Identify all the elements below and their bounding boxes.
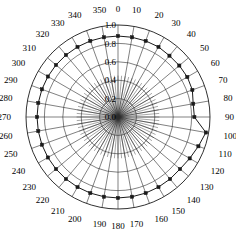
svg-text:50: 50: [200, 43, 210, 53]
svg-text:210: 210: [51, 206, 65, 216]
svg-text:20: 20: [155, 10, 165, 20]
svg-text:70: 70: [219, 75, 229, 85]
svg-text:10: 10: [132, 5, 142, 15]
svg-text:250: 250: [4, 149, 18, 159]
svg-text:160: 160: [155, 214, 169, 224]
svg-text:180: 180: [111, 221, 125, 231]
svg-text:240: 240: [12, 166, 26, 176]
svg-text:280: 280: [0, 93, 13, 103]
svg-text:100: 100: [223, 131, 236, 141]
svg-text:300: 300: [12, 58, 26, 68]
svg-text:350: 350: [93, 5, 107, 15]
svg-text:30: 30: [172, 18, 182, 28]
svg-text:290: 290: [4, 75, 18, 85]
svg-text:0: 0: [116, 4, 121, 14]
radial-axis-tick-labels: 0.00.20.40.60.81.0: [105, 20, 117, 122]
svg-text:40: 40: [187, 29, 197, 39]
svg-text:190: 190: [93, 219, 107, 229]
svg-text:230: 230: [23, 182, 37, 192]
svg-text:340: 340: [68, 10, 82, 20]
svg-text:120: 120: [211, 166, 225, 176]
svg-text:140: 140: [187, 195, 201, 205]
svg-text:170: 170: [130, 219, 144, 229]
svg-text:220: 220: [36, 195, 50, 205]
svg-text:260: 260: [0, 131, 13, 141]
svg-text:150: 150: [172, 206, 186, 216]
svg-text:0.8: 0.8: [105, 39, 117, 49]
svg-text:0.4: 0.4: [105, 75, 117, 85]
svg-text:60: 60: [211, 58, 221, 68]
svg-text:130: 130: [200, 182, 214, 192]
polar-plot-canvas: 0.00.20.40.60.81.0 010203040506070809010…: [0, 0, 236, 238]
polar-chart-figure: 0.00.20.40.60.81.0 010203040506070809010…: [0, 0, 236, 238]
svg-text:1.0: 1.0: [105, 20, 117, 30]
angular-grid-spokes: [26, 25, 210, 209]
svg-text:0.6: 0.6: [105, 57, 117, 67]
svg-text:330: 330: [51, 18, 65, 28]
svg-text:110: 110: [219, 149, 233, 159]
svg-text:90: 90: [225, 112, 235, 122]
svg-text:270: 270: [0, 112, 12, 122]
svg-text:320: 320: [36, 29, 50, 39]
svg-text:80: 80: [223, 93, 233, 103]
svg-text:200: 200: [68, 214, 82, 224]
svg-text:310: 310: [23, 43, 37, 53]
svg-text:0.2: 0.2: [105, 94, 116, 104]
svg-text:0.0: 0.0: [105, 112, 117, 122]
